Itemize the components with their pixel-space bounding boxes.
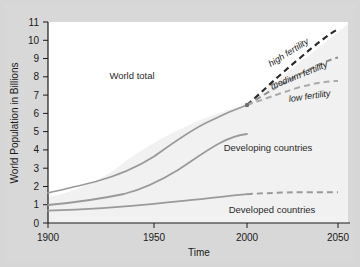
x-tick-label-1900: 1900: [37, 232, 60, 243]
chart-figure: 0 1 2 3 4 5 6 7 8 9 10 11 1900 1950 2000…: [0, 0, 360, 267]
y-tick-label-9: 9: [33, 53, 39, 64]
y-tick-label-5: 5: [33, 126, 39, 137]
y-tick-label-8: 8: [33, 71, 39, 82]
annotation-world-total: World total: [109, 70, 154, 81]
population-projection-chart: 0 1 2 3 4 5 6 7 8 9 10 11 1900 1950 2000…: [0, 0, 360, 267]
x-tick-label-1950: 1950: [143, 232, 166, 243]
x-axis-ticks: [48, 223, 338, 228]
annotation-developed-countries: Developed countries: [229, 204, 316, 215]
y-tick-label-0: 0: [33, 218, 39, 229]
y-tick-label-3: 3: [33, 163, 39, 174]
y-tick-label-10: 10: [28, 35, 40, 46]
y-tick-label-2: 2: [33, 181, 39, 192]
y-tick-label-6: 6: [33, 108, 39, 119]
projection-branch-point: [245, 103, 249, 107]
x-axis-title: Time: [188, 247, 210, 258]
y-tick-label-11: 11: [29, 17, 40, 28]
y-axis-title: World Population in Billions: [9, 63, 20, 184]
x-tick-label-2050: 2050: [327, 232, 350, 243]
annotation-developing-countries: Developing countries: [224, 142, 313, 153]
y-tick-label-7: 7: [33, 90, 39, 101]
y-tick-label-1: 1: [33, 199, 39, 210]
y-tick-label-4: 4: [33, 144, 39, 155]
x-tick-label-2000: 2000: [236, 232, 259, 243]
